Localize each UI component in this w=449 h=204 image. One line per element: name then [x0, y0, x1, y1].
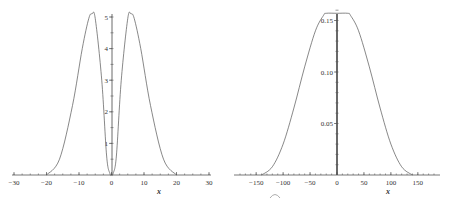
x-tick-label: 0 [335, 179, 339, 187]
x-tick-label: 10 [141, 179, 149, 187]
x-tick-label: 20 [173, 179, 181, 187]
y-tick-label: 4 [105, 45, 109, 53]
chart-canvas: −30−20−10010203012345x −150−100−50050100… [0, 0, 449, 204]
y-tick-label: 2 [105, 108, 109, 116]
x-tick-label: −150 [249, 179, 264, 187]
y-tick-label: 3 [105, 77, 109, 85]
x-tick-label: −50 [305, 179, 316, 187]
x-axis-label: x [385, 187, 390, 196]
x-axis-label: x [156, 187, 161, 196]
hat-glyph [270, 195, 280, 199]
x-tick-label: −20 [41, 179, 52, 187]
x-tick-label: −100 [276, 179, 291, 187]
x-tick-label: 100 [386, 179, 397, 187]
y-tick-label: 5 [105, 14, 109, 22]
x-tick-label: −30 [9, 179, 20, 187]
x-tick-label: 0 [110, 179, 114, 187]
left-chart: −30−20−10010203012345x [9, 12, 213, 196]
x-tick-label: 30 [206, 179, 214, 187]
y-tick-label: 0.15 [321, 17, 334, 25]
y-tick-label: 0.10 [321, 69, 334, 77]
right-chart: −150−100−500501001500.050.100.15x [234, 10, 440, 196]
x-tick-label: 50 [360, 179, 368, 187]
y-tick-label: 1 [105, 140, 109, 148]
x-tick-label: −10 [74, 179, 85, 187]
x-tick-label: 150 [413, 179, 424, 187]
curve-line [47, 12, 177, 175]
y-tick-label: 0.05 [321, 120, 334, 128]
